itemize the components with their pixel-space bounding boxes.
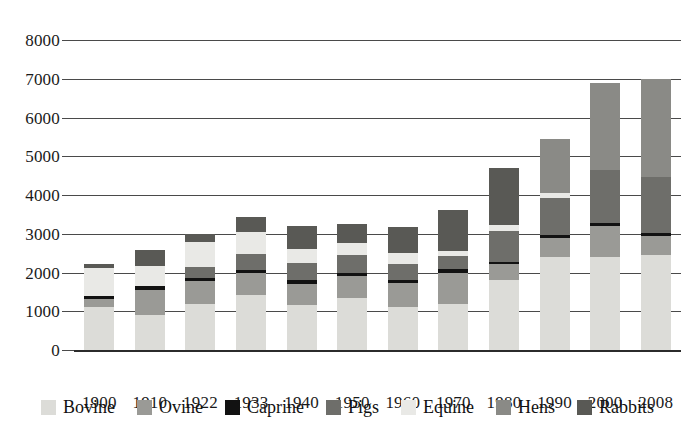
y-axis-tick <box>62 40 74 41</box>
bar-segment-caprine <box>337 273 367 276</box>
bar-segment-caprine <box>540 235 570 238</box>
legend-item-equine[interactable]: Equine <box>401 398 474 416</box>
bar-1950 <box>337 40 367 350</box>
legend-swatch-caprine <box>225 400 240 415</box>
y-axis-tick-label: 7000 <box>2 70 60 87</box>
bar-segment-equine <box>540 193 570 198</box>
bar-segment-equine <box>287 249 317 263</box>
bar-segment-bovine <box>438 304 468 350</box>
y-axis-tick <box>62 156 74 157</box>
legend-label: Pigs <box>348 398 379 416</box>
y-axis-tick-label: 8000 <box>2 32 60 49</box>
bar-segment-equine <box>438 251 468 256</box>
bar-segment-rabbits <box>236 217 266 232</box>
bar-segment-bovine <box>540 257 570 350</box>
legend-swatch-hens <box>496 400 511 415</box>
bar-segment-equine <box>185 242 215 266</box>
y-axis-tick <box>62 234 74 235</box>
bar-1940 <box>287 40 317 350</box>
bar-segment-pigs <box>641 177 671 232</box>
bar-1970 <box>438 40 468 350</box>
y-axis-tick <box>62 195 74 196</box>
legend-item-rabbits[interactable]: Rabbits <box>577 398 654 416</box>
y-axis-tick-label: 4000 <box>2 187 60 204</box>
bar-segment-caprine <box>641 233 671 236</box>
bar-segment-equine <box>489 225 519 231</box>
bar-segment-rabbits <box>185 234 215 243</box>
bar-segment-pigs <box>438 256 468 268</box>
y-axis-tick <box>62 350 74 351</box>
legend-item-hens[interactable]: Hens <box>496 398 555 416</box>
bar-segment-caprine <box>84 296 114 299</box>
bar-segment-ovine <box>590 226 620 257</box>
bar-1980 <box>489 40 519 350</box>
legend-item-caprine[interactable]: Caprine <box>225 398 304 416</box>
chart-legend: BovineOvineCaprinePigsEquineHensRabbits <box>0 392 695 422</box>
legend-label: Ovine <box>159 398 203 416</box>
bar-segment-equine <box>236 232 266 254</box>
bar-segment-pigs <box>236 254 266 270</box>
bar-segment-pigs <box>388 264 418 280</box>
bar-segment-bovine <box>135 315 165 350</box>
bar-segment-caprine <box>236 270 266 273</box>
bar-segment-rabbits <box>438 210 468 251</box>
bar-segment-bovine <box>287 305 317 350</box>
legend-swatch-equine <box>401 400 416 415</box>
bar-segment-rabbits <box>489 168 519 225</box>
bar-segment-equine <box>84 268 114 296</box>
bar-segment-rabbits <box>84 264 114 268</box>
bar-segment-bovine <box>236 295 266 350</box>
y-axis-tick <box>62 273 74 274</box>
y-axis-tick-label: 1000 <box>2 303 60 320</box>
bar-segment-hens <box>641 79 671 177</box>
bar-segment-caprine <box>590 223 620 226</box>
bar-segment-rabbits <box>337 224 367 243</box>
bar-segment-hens <box>540 139 570 193</box>
legend-label: Caprine <box>247 398 304 416</box>
legend-label: Hens <box>518 398 555 416</box>
legend-swatch-bovine <box>41 400 56 415</box>
bar-segment-bovine <box>489 280 519 350</box>
legend-swatch-rabbits <box>577 400 592 415</box>
legend-label: Rabbits <box>599 398 654 416</box>
legend-swatch-pigs <box>326 400 341 415</box>
bar-segment-ovine <box>236 273 266 295</box>
bar-1922 <box>185 40 215 350</box>
bar-segment-rabbits <box>287 226 317 249</box>
bar-segment-bovine <box>337 298 367 350</box>
bar-segment-ovine <box>84 299 114 307</box>
bar-segment-bovine <box>641 255 671 350</box>
y-axis-tick-label: 6000 <box>2 109 60 126</box>
stacked-bar-chart: 010002000300040005000600070008000 190019… <box>0 0 695 436</box>
bar-segment-pigs <box>185 267 215 278</box>
plot-area: 1900191019221933194019501960197019801990… <box>74 40 681 350</box>
bar-segment-bovine <box>388 307 418 350</box>
legend-item-bovine[interactable]: Bovine <box>41 398 115 416</box>
bar-2008 <box>641 40 671 350</box>
bar-segment-ovine <box>337 276 367 298</box>
bar-1900 <box>84 40 114 350</box>
y-axis-tick-label: 0 <box>2 342 60 359</box>
y-axis-tick-label: 2000 <box>2 264 60 281</box>
bar-segment-rabbits <box>388 227 418 253</box>
bar-segment-ovine <box>438 273 468 305</box>
y-axis-tick-label: 3000 <box>2 225 60 242</box>
legend-item-ovine[interactable]: Ovine <box>137 398 203 416</box>
bar-segment-pigs <box>489 231 519 262</box>
bar-segment-pigs <box>337 255 367 272</box>
bar-1990 <box>540 40 570 350</box>
bar-segment-caprine <box>185 278 215 281</box>
bar-1960 <box>388 40 418 350</box>
bar-segment-bovine <box>84 307 114 350</box>
bar-1933 <box>236 40 266 350</box>
bar-segment-caprine <box>135 286 165 289</box>
bar-segment-ovine <box>388 283 418 306</box>
legend-swatch-ovine <box>137 400 152 415</box>
bar-segment-pigs <box>540 198 570 235</box>
y-axis-tick <box>62 118 74 119</box>
bar-segment-hens <box>590 83 620 170</box>
legend-item-pigs[interactable]: Pigs <box>326 398 379 416</box>
bar-segment-ovine <box>641 236 671 255</box>
legend-label: Bovine <box>63 398 115 416</box>
bar-segment-rabbits <box>135 250 165 267</box>
